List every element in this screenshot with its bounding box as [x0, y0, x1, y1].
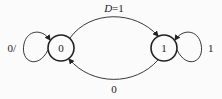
transition-label-0-1: D=1	[103, 2, 124, 14]
transition-0-to-1: D=1	[70, 2, 158, 38]
transition-label-0-0: 0/	[7, 42, 17, 54]
state-label-0: 0	[58, 42, 64, 54]
state-diagram: 0 1 0/ D=1 1 0	[0, 0, 222, 99]
transition-0-to-0: 0/	[7, 32, 50, 62]
state-node-1: 1	[151, 35, 177, 61]
transition-label-1-1: 1	[208, 42, 214, 54]
transition-1-to-0: 0	[69, 59, 158, 95]
state-node-0: 0	[48, 35, 74, 61]
transition-1-to-1: 1	[175, 32, 214, 62]
transition-label-1-0: 0	[111, 83, 117, 95]
state-label-1: 1	[161, 42, 167, 54]
